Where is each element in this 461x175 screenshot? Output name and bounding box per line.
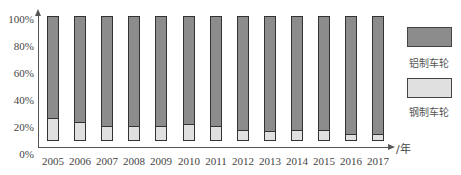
bar-segment-aluminum <box>48 17 58 118</box>
y-axis-arrow-icon <box>35 9 41 16</box>
x-tick-2007: 2007 <box>92 155 122 167</box>
x-tick-2015: 2015 <box>309 155 339 167</box>
x-tick-2006: 2006 <box>65 155 95 167</box>
bar-2014 <box>291 16 303 141</box>
bar-segment-steel <box>238 130 248 140</box>
legend-label-aluminum: 铝制车轮 <box>400 55 458 70</box>
bar-segment-steel <box>319 130 329 140</box>
bar-segment-steel <box>48 118 58 140</box>
bar-2009 <box>155 16 167 141</box>
bar-segment-aluminum <box>75 17 85 122</box>
x-tick-2013: 2013 <box>255 155 285 167</box>
x-tick-2010: 2010 <box>174 155 204 167</box>
x-tick-2005: 2005 <box>38 155 68 167</box>
bar-2010 <box>183 16 195 141</box>
bar-segment-steel <box>75 122 85 140</box>
bar-2008 <box>128 16 140 141</box>
y-tick-60: 60% <box>0 67 34 79</box>
bar-segment-aluminum <box>211 17 221 126</box>
bar-segment-steel <box>184 124 194 140</box>
bar-segment-aluminum <box>346 17 356 134</box>
bar-segment-steel <box>346 134 356 140</box>
x-tick-2009: 2009 <box>146 155 176 167</box>
y-tick-20: 20% <box>0 121 34 133</box>
bar-2006 <box>74 16 86 141</box>
legend-swatch-steel <box>407 78 452 98</box>
bar-2011 <box>210 16 222 141</box>
bar-segment-aluminum <box>238 17 248 130</box>
y-tick-0: 0% <box>0 148 34 160</box>
bar-segment-steel <box>156 126 166 140</box>
x-axis <box>38 147 390 148</box>
x-tick-2011: 2011 <box>201 155 231 167</box>
bar-2013 <box>264 16 276 141</box>
x-tick-2012: 2012 <box>228 155 258 167</box>
x-tick-2017: 2017 <box>363 155 393 167</box>
bar-segment-aluminum <box>292 17 302 130</box>
bar-segment-steel <box>102 126 112 140</box>
stacked-bar-chart: 100% 80% 60% 40% 20% 0% /年 2005200620072… <box>0 0 461 175</box>
y-axis <box>38 12 39 148</box>
legend-swatch-aluminum <box>407 27 452 47</box>
bar-segment-aluminum <box>319 17 329 130</box>
bar-2017 <box>372 16 384 141</box>
bar-segment-steel <box>129 126 139 140</box>
bar-segment-aluminum <box>156 17 166 126</box>
bar-2007 <box>101 16 113 141</box>
bar-2015 <box>318 16 330 141</box>
bar-2012 <box>237 16 249 141</box>
bar-segment-steel <box>265 131 275 140</box>
bar-segment-steel <box>292 130 302 140</box>
bar-segment-aluminum <box>129 17 139 126</box>
bar-segment-aluminum <box>184 17 194 124</box>
legend-label-steel: 钢制车轮 <box>400 104 458 119</box>
bar-segment-steel <box>373 134 383 140</box>
x-axis-unit: /年 <box>396 140 411 156</box>
y-tick-100: 100% <box>0 13 34 25</box>
bar-2016 <box>345 16 357 141</box>
bar-segment-steel <box>211 126 221 140</box>
y-tick-40: 40% <box>0 94 34 106</box>
bar-segment-aluminum <box>265 17 275 131</box>
bar-2005 <box>47 16 59 141</box>
bar-segment-aluminum <box>373 17 383 134</box>
x-axis-arrow-icon <box>388 144 395 150</box>
x-tick-2014: 2014 <box>282 155 312 167</box>
x-tick-2008: 2008 <box>119 155 149 167</box>
y-tick-80: 80% <box>0 40 34 52</box>
bar-segment-aluminum <box>102 17 112 126</box>
x-tick-2016: 2016 <box>336 155 366 167</box>
